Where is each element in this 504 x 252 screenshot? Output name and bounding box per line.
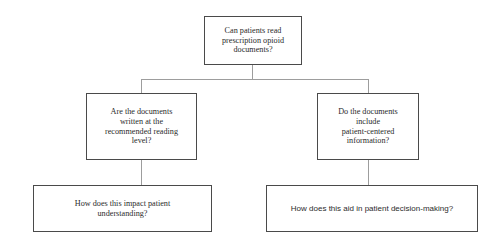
node-reading-level-question-label: Are the documents written at the recomme… bbox=[101, 107, 182, 146]
connector-root-stub bbox=[252, 65, 253, 79]
node-decision-question-label: How does this aid in patient decision-ma… bbox=[287, 204, 457, 213]
flowchart-canvas: Can patients read prescription opioid do… bbox=[0, 0, 504, 252]
node-patient-centered-question: Do the documents include patient-centere… bbox=[317, 93, 419, 160]
node-patient-centered-question-label: Do the documents include patient-centere… bbox=[334, 107, 402, 146]
node-root-question: Can patients read prescription opioid do… bbox=[204, 16, 302, 65]
node-impact-question: How does this impact patient understandi… bbox=[33, 185, 212, 232]
connector-root-to-patient-centered bbox=[368, 79, 369, 93]
node-reading-level-question: Are the documents written at the recomme… bbox=[86, 93, 197, 160]
node-decision-question: How does this aid in patient decision-ma… bbox=[266, 185, 478, 232]
node-impact-question-label: How does this impact patient understandi… bbox=[71, 199, 175, 218]
connector-root-to-reading-level bbox=[141, 79, 142, 93]
connector-patient-centered-to-decision bbox=[368, 160, 369, 185]
connector-reading-level-to-impact bbox=[141, 160, 142, 185]
connector-horizontal-bus bbox=[141, 79, 368, 80]
node-root-question-label: Can patients read prescription opioid do… bbox=[218, 26, 288, 55]
